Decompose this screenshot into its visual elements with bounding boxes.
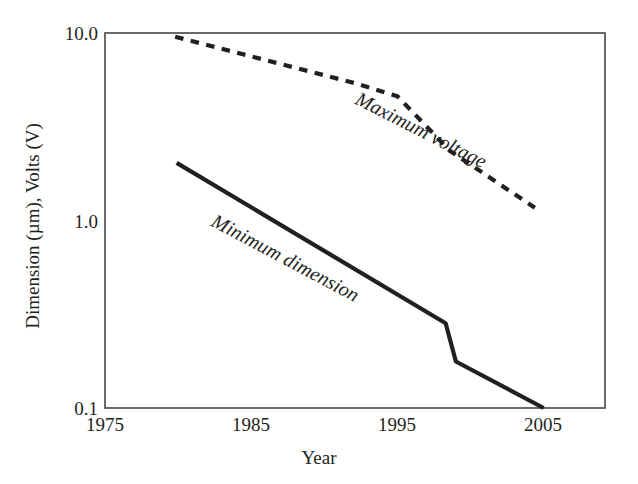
chart-figure: 10.0 1.0 0.1 1975 1985 1995 2005 Dimensi…	[0, 0, 638, 484]
x-tick-label-1985: 1985	[211, 415, 291, 434]
plot-frame	[105, 33, 605, 408]
y-axis-title: Dimension (µm), Volts (V)	[22, 106, 44, 346]
axes-frame	[105, 33, 605, 408]
y-tick-label-10: 10.0	[40, 24, 98, 43]
x-axis-title: Year	[0, 447, 638, 469]
x-tick-label-2005: 2005	[503, 415, 583, 434]
series-line-maximum-voltage	[175, 37, 535, 208]
x-tick-label-1995: 1995	[357, 415, 437, 434]
y-tick-label-1: 1.0	[40, 212, 98, 231]
x-tick-label-1975: 1975	[65, 415, 145, 434]
